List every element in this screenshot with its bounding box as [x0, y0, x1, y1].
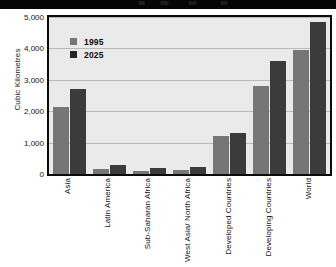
y-tick-label: 5,000	[4, 13, 44, 22]
x-label-slot: Developed Countries	[208, 178, 248, 267]
y-axis-tick-labels: 01,0002,0003,0004,0005,000	[4, 16, 44, 174]
x-axis-category-labels: AsiaLatin AmericaSub-Saharan AfricaWest …	[47, 178, 332, 267]
bar-1995-developing-countries[interactable]	[253, 86, 269, 174]
x-label-slot: Asia	[47, 178, 87, 267]
bar-2025-sub-saharan-africa[interactable]	[150, 168, 166, 174]
bar-2025-latin-america[interactable]	[110, 165, 126, 174]
bar-1995-asia[interactable]	[53, 107, 69, 175]
x-tick-label: Developing Countries	[263, 178, 272, 257]
x-label-slot: Developing Countries	[248, 178, 288, 267]
bar-1995-west-asia-north-africa[interactable]	[173, 170, 189, 174]
bar-1995-world[interactable]	[293, 50, 309, 174]
x-tick-label: Sub-Saharan Africa	[143, 178, 152, 249]
chart-legend: 1995 2025	[70, 35, 134, 61]
legend-item-2025: 2025	[70, 48, 134, 61]
y-tick-label: 4,000	[4, 44, 44, 53]
bar-group	[290, 17, 330, 174]
legend-item-1995: 1995	[70, 35, 134, 48]
x-tick-label: Developed Countries	[223, 178, 232, 255]
x-tick-label: Latin America	[103, 178, 112, 228]
top-band-artifact	[130, 1, 280, 5]
bar-1995-latin-america[interactable]	[93, 169, 109, 174]
legend-swatch-1995-icon	[70, 38, 77, 45]
bar-group	[169, 17, 209, 174]
bar-1995-sub-saharan-africa[interactable]	[133, 171, 149, 174]
bar-2025-asia[interactable]	[70, 89, 86, 174]
x-label-slot: Sub-Saharan Africa	[127, 178, 167, 267]
chart-figure: Cubic Kilometres 01,0002,0003,0004,0005,…	[0, 0, 336, 267]
y-tick-label: 2,000	[4, 107, 44, 116]
bar-group	[210, 17, 250, 174]
x-tick-label: West Asia/ North Africa	[183, 178, 192, 262]
plot-frame: 1995 2025	[47, 15, 332, 176]
y-tick-label: 3,000	[4, 75, 44, 84]
bar-1995-developed-countries[interactable]	[213, 136, 229, 174]
x-label-slot: World	[288, 178, 328, 267]
x-label-slot: West Asia/ North Africa	[167, 178, 207, 267]
x-tick-label: World	[303, 178, 312, 199]
y-tick-label: 0	[4, 170, 44, 179]
bar-group	[250, 17, 290, 174]
top-black-band	[0, 0, 336, 9]
legend-swatch-2025-icon	[70, 51, 77, 58]
x-tick-label: Asia	[63, 178, 72, 194]
y-tick-label: 1,000	[4, 138, 44, 147]
bar-2025-developing-countries[interactable]	[270, 61, 286, 174]
legend-label-2025: 2025	[84, 50, 104, 60]
legend-label-1995: 1995	[84, 37, 104, 47]
bar-2025-west-asia-north-africa[interactable]	[190, 167, 206, 174]
bar-2025-developed-countries[interactable]	[230, 133, 246, 174]
x-label-slot: Latin America	[87, 178, 127, 267]
bar-2025-world[interactable]	[310, 22, 326, 174]
bar-group	[129, 17, 169, 174]
